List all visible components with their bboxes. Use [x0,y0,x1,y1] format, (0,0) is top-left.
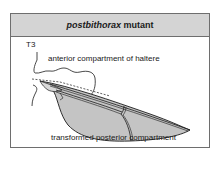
label-posterior-compartment: transformed posterior compartment [51,133,176,142]
thorax-lower-outline [32,85,37,106]
label-t3: T3 [26,40,35,49]
haltere-wing-illustration [0,0,219,177]
label-anterior-compartment: anterior compartment of haltere [48,54,160,63]
